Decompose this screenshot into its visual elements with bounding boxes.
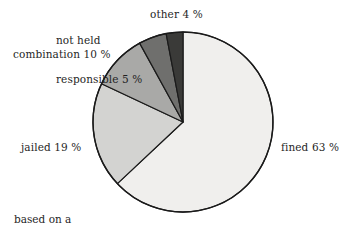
pie-label-not-held-responsible-line1: not held	[56, 34, 142, 47]
pie-chart-figure: not held responsible 5 % other 4 % combi…	[0, 0, 344, 242]
pie-label-not-held-responsible-line2: responsible 5 %	[56, 73, 142, 86]
caption-line-1: based on a	[14, 213, 100, 227]
pie-label-combination: combination 10 %	[13, 48, 111, 61]
chart-source-caption: based on a survey of 1500 Canadians in 1…	[14, 186, 100, 242]
pie-label-jailed: jailed 19 %	[21, 141, 81, 154]
pie-label-other: other 4 %	[150, 8, 203, 21]
pie-label-fined: fined 63 %	[281, 141, 339, 154]
